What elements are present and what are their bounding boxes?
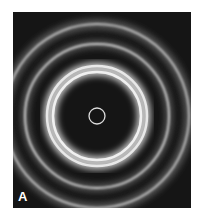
diffraction-pattern bbox=[13, 12, 191, 208]
panel-label: A bbox=[18, 189, 27, 204]
inner-glow bbox=[50, 69, 144, 163]
inner-ring-a bbox=[53, 72, 141, 160]
inner-ring-b bbox=[47, 66, 147, 166]
center-ring bbox=[89, 108, 105, 124]
outer-ring bbox=[13, 24, 189, 208]
diffraction-image-panel: A bbox=[13, 12, 191, 208]
